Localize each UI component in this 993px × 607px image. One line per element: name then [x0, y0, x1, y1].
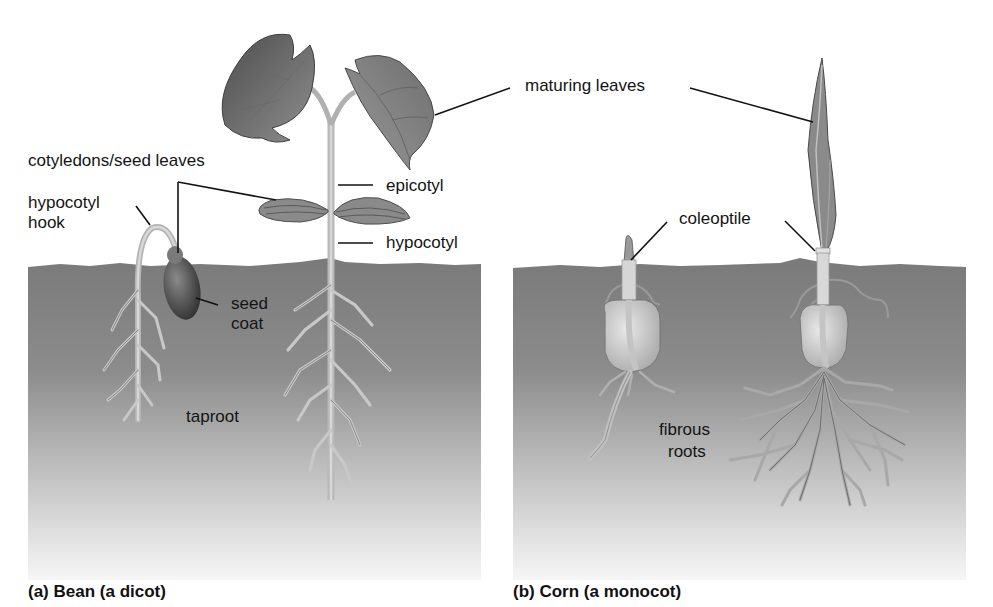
label-epicotyl: epicotyl — [386, 176, 444, 196]
label-fibrous-roots-line2: roots — [668, 442, 706, 462]
leader-coleoptile-young — [631, 222, 667, 260]
label-taproot: taproot — [186, 407, 239, 427]
label-seed-coat-line2: coat — [231, 314, 263, 334]
label-maturing-leaves: maturing leaves — [525, 76, 645, 96]
label-cotyledons: cotyledons/seed leaves — [28, 151, 205, 171]
leader-hypocotyl-hook — [136, 206, 150, 225]
leader-coleoptile-mature — [785, 221, 815, 251]
diagram-figure: cotyledons/seed leaves hypocotyl hook ep… — [0, 0, 993, 607]
label-hypocotyl: hypocotyl — [386, 233, 458, 253]
label-fibrous-roots-line1: fibrous — [659, 420, 710, 440]
label-coleoptile: coleoptile — [679, 209, 751, 229]
leader-maturing-leaves-bean — [435, 88, 510, 115]
plant-illustration — [0, 0, 993, 607]
label-hypocotyl-hook-line2: hook — [28, 213, 65, 233]
label-hypocotyl-hook-line1: hypocotyl — [28, 193, 100, 213]
label-seed-coat-line1: seed — [231, 294, 268, 314]
caption-bean-dicot: (a) Bean (a dicot) — [28, 582, 166, 602]
leader-maturing-leaves-corn — [690, 88, 813, 122]
caption-corn-monocot: (b) Corn (a monocot) — [513, 582, 681, 602]
leader-cotyledon-to-leaf — [178, 182, 276, 200]
